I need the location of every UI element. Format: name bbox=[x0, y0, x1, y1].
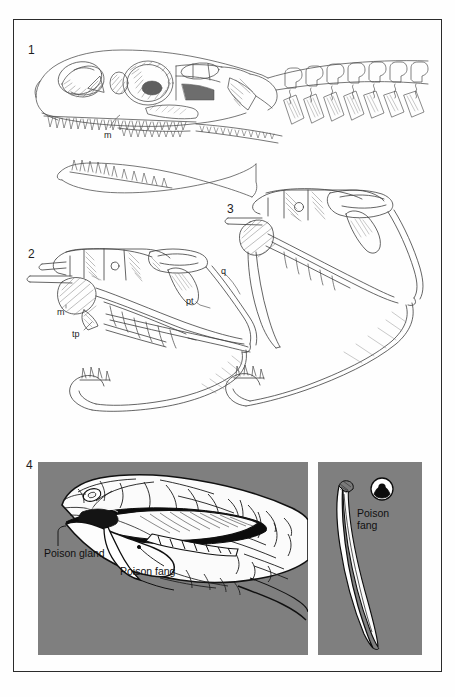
label-poison-gland: Poison gland bbox=[44, 548, 105, 560]
label-poison-fang-detail-line2: fang bbox=[357, 519, 377, 531]
label-poison-fang-detail: Poisonfang bbox=[357, 508, 409, 532]
label-poison-fang: Poison fang bbox=[120, 566, 175, 578]
illustration-plate: 1 2 3 4 m m tp pt q bbox=[0, 0, 455, 697]
figure-4-snake-head-artwork bbox=[0, 0, 455, 697]
label-poison-fang-detail-line1: Poison bbox=[357, 507, 389, 519]
